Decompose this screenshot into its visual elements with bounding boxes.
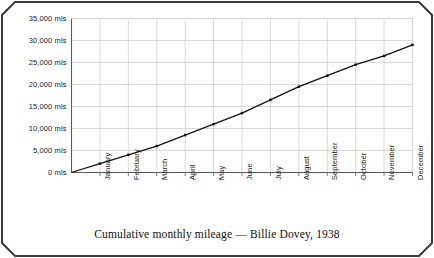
x-tick-label: July [274,166,283,180]
chart-figure: 0 mls5,000 mls10,000 mls15,000 mls20,000… [0,0,434,258]
y-tick-label: 15,000 mls [29,102,67,111]
y-tick-label: 30,000 mls [29,36,67,45]
x-tick-label: May [217,165,226,179]
chart-caption: Cumulative monthly mileage — Billie Dove… [0,228,434,240]
x-tick-label: August [302,156,311,180]
x-tick-label: November [387,144,396,179]
y-tick-label: 10,000 mls [29,124,67,133]
x-tick-label: February [132,149,141,180]
gridlines [72,19,413,173]
y-tick-label: 25,000 mls [29,58,67,67]
x-tick-label: June [245,163,254,180]
x-tick-label: December [416,144,425,179]
plot-area-wrapper: 0 mls5,000 mls10,000 mls15,000 mls20,000… [0,0,434,258]
x-tick-label: March [160,158,169,179]
y-tick-label: 35,000 mls [29,14,67,23]
x-tick-label: January [103,152,112,179]
y-tick-label: 0 mls [48,168,66,177]
x-tick-label: September [330,142,339,180]
y-tick-label: 5,000 mls [33,146,66,155]
x-tick-label: April [188,164,197,180]
x-tick-label: October [359,152,368,179]
y-tick-label: 20,000 mls [29,80,67,89]
